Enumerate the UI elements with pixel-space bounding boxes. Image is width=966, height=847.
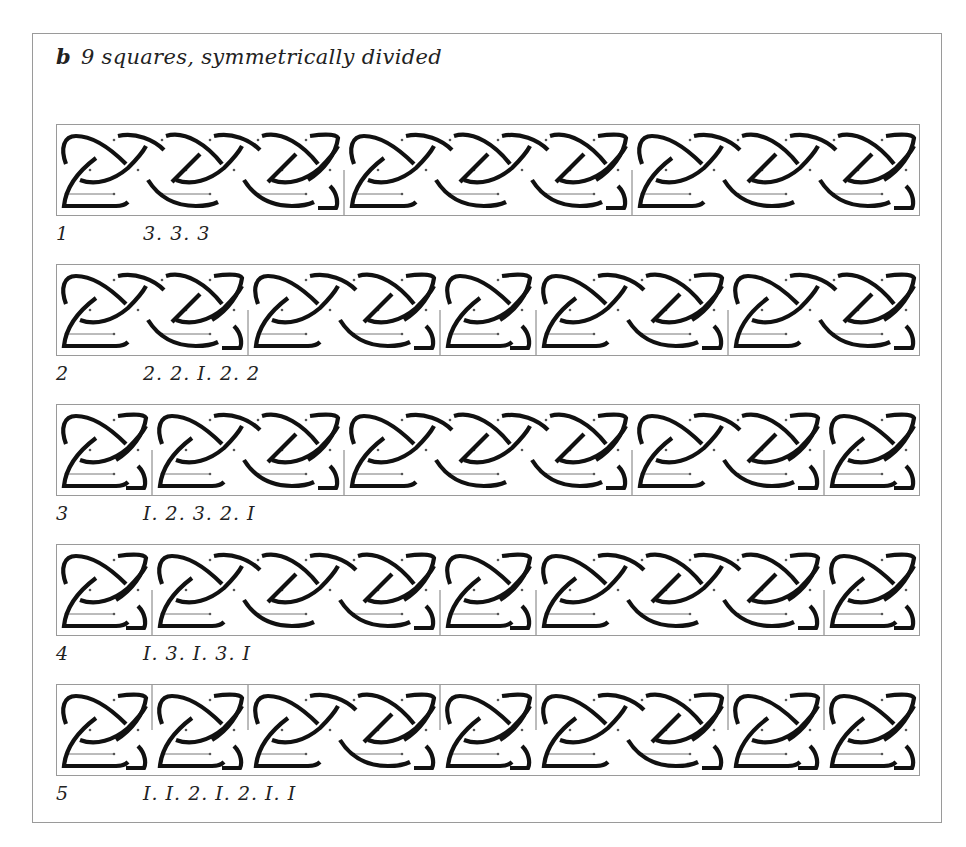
row-number-3: 3 — [56, 502, 68, 524]
grid-dot — [257, 139, 260, 142]
grid-dot — [233, 169, 236, 172]
grid-dot — [161, 139, 164, 142]
grid-dot — [737, 559, 740, 562]
grid-dot — [713, 729, 716, 732]
knot-strand — [364, 574, 392, 602]
knot-band-4 — [56, 544, 920, 636]
grid-dot — [593, 419, 596, 422]
knot-strand — [172, 294, 200, 322]
grid-dot — [185, 729, 188, 732]
grid-dot — [857, 449, 860, 452]
knot-strand — [694, 555, 740, 570]
grid-dot — [185, 589, 188, 592]
knot-strand — [844, 294, 872, 322]
knot-strand — [214, 555, 260, 570]
knot-strand — [406, 415, 452, 430]
grid-dot — [689, 333, 692, 336]
row-code-1: 3. 3. 3 — [143, 222, 210, 244]
knot-strand — [606, 186, 625, 208]
grid-dot — [353, 559, 356, 562]
knot-strand — [310, 275, 356, 290]
grid-dot — [281, 729, 284, 732]
grid-dot — [593, 613, 596, 616]
grid-dot — [329, 729, 332, 732]
grid-dot — [521, 449, 524, 452]
knot-strand — [894, 746, 913, 768]
grid-dot — [641, 699, 644, 702]
grid-dot — [785, 139, 788, 142]
knot-strand — [126, 466, 145, 488]
row-number-4: 4 — [56, 642, 68, 664]
grid-dot — [881, 193, 884, 196]
grid-dot — [113, 753, 116, 756]
grid-dot — [689, 419, 692, 422]
knot-strand — [268, 154, 296, 182]
grid-dot — [569, 309, 572, 312]
grid-dot — [641, 559, 644, 562]
grid-dot — [857, 589, 860, 592]
knot-strand — [510, 746, 529, 768]
knot-strand — [318, 186, 337, 208]
grid-dot — [809, 449, 812, 452]
grid-dot — [593, 139, 596, 142]
knot-strand — [894, 186, 913, 208]
grid-dot — [89, 589, 92, 592]
grid-dot — [593, 473, 596, 476]
knot-strand — [694, 415, 740, 430]
grid-dot — [497, 613, 500, 616]
grid-dot — [401, 753, 404, 756]
grid-dot — [689, 473, 692, 476]
grid-dot — [233, 309, 236, 312]
grid-dot — [857, 729, 860, 732]
knot-strand — [894, 466, 913, 488]
grid-dot — [689, 559, 692, 562]
grid-dot — [617, 729, 620, 732]
grid-dot — [785, 699, 788, 702]
grid-dot — [209, 139, 212, 142]
grid-dot — [617, 169, 620, 172]
knot-strand — [364, 714, 392, 742]
grid-dot — [689, 613, 692, 616]
knot-strand — [502, 135, 548, 150]
knot-strand — [172, 154, 200, 182]
row-number-5: 5 — [56, 782, 68, 804]
grid-dot — [737, 419, 740, 422]
grid-dot — [185, 449, 188, 452]
grid-dot — [401, 473, 404, 476]
grid-dot — [233, 729, 236, 732]
grid-dot — [401, 279, 404, 282]
grid-dot — [377, 169, 380, 172]
grid-dot — [209, 559, 212, 562]
grid-dot — [401, 419, 404, 422]
knot-band-svg — [56, 544, 920, 636]
grid-dot — [737, 139, 740, 142]
grid-dot — [881, 139, 884, 142]
grid-dot — [305, 193, 308, 196]
grid-dot — [137, 589, 140, 592]
grid-dot — [89, 169, 92, 172]
grid-dot — [305, 419, 308, 422]
grid-dot — [713, 589, 716, 592]
grid-dot — [881, 559, 884, 562]
knot-strand — [598, 555, 644, 570]
grid-dot — [545, 419, 548, 422]
grid-dot — [833, 139, 836, 142]
grid-dot — [785, 559, 788, 562]
grid-dot — [497, 279, 500, 282]
figure-letter: b — [56, 44, 71, 69]
grid-dot — [809, 309, 812, 312]
grid-dot — [881, 753, 884, 756]
knot-strand — [414, 326, 433, 348]
grid-dot — [497, 699, 500, 702]
grid-dot — [905, 169, 908, 172]
knot-strand — [556, 434, 584, 462]
grid-dot — [353, 279, 356, 282]
grid-dot — [497, 193, 500, 196]
knot-strand — [310, 695, 356, 710]
grid-dot — [593, 333, 596, 336]
grid-dot — [497, 139, 500, 142]
knot-strand — [214, 415, 260, 430]
grid-dot — [785, 753, 788, 756]
grid-dot — [713, 169, 716, 172]
grid-dot — [401, 613, 404, 616]
